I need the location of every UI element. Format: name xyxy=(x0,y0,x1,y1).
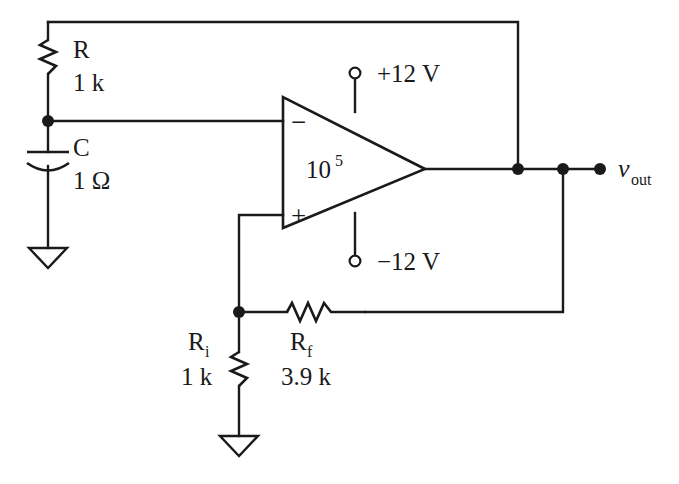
resistor-rf-label-subscript: f xyxy=(307,343,313,360)
noninverting-input-sign: + xyxy=(291,201,306,231)
inverting-input-sign: − xyxy=(291,107,306,137)
supply-positive-label: +12 V xyxy=(377,60,440,87)
resistor-r-symbol xyxy=(40,40,56,74)
output-label: v out xyxy=(618,154,652,188)
supply-positive-terminal[interactable] xyxy=(350,68,361,79)
supply-negative-label: −12 V xyxy=(377,248,440,275)
resistor-ri-label: R i xyxy=(188,328,210,360)
resistor-rf-value: 3.9 k xyxy=(281,363,332,390)
output-label-var: v xyxy=(618,154,630,183)
resistor-rf-label-main: R xyxy=(290,328,307,355)
opamp-gain-exponent: 5 xyxy=(335,152,343,169)
resistor-ri-label-subscript: i xyxy=(205,343,210,360)
resistor-rf-symbol xyxy=(287,303,366,321)
capacitor-c-value: 1 Ω xyxy=(73,167,110,194)
node-dot-output-rf xyxy=(557,163,569,175)
circuit-diagram: R 1 k C 1 Ω − + 10 5 +12 V −12 V v out R… xyxy=(0,0,679,484)
node-dot-inverting xyxy=(42,115,54,127)
output-label-subscript: out xyxy=(631,171,652,188)
resistor-ri-label-main: R xyxy=(188,328,205,355)
ground-left-symbol xyxy=(29,248,67,268)
ground-bottom-symbol xyxy=(220,436,258,456)
resistor-r-value: 1 k xyxy=(73,69,105,96)
node-dot-output-terminal xyxy=(594,163,606,175)
opamp-gain-mantissa: 10 xyxy=(306,156,331,183)
supply-negative-terminal[interactable] xyxy=(350,256,361,267)
circuit-canvas: R 1 k C 1 Ω − + 10 5 +12 V −12 V v out R… xyxy=(0,0,679,484)
node-dot-output-feedback xyxy=(512,163,524,175)
opamp-gain-label: 10 5 xyxy=(306,152,343,183)
resistor-ri-value: 1 k xyxy=(181,363,213,390)
capacitor-c-label: C xyxy=(73,134,90,161)
wire-noninverting-input xyxy=(239,215,283,312)
resistor-rf-label: R f xyxy=(290,328,313,360)
wire-rf-right-lead xyxy=(366,169,563,312)
resistor-r-label: R xyxy=(73,36,90,63)
resistor-ri-symbol xyxy=(231,352,247,386)
node-dot-noninverting xyxy=(233,306,245,318)
